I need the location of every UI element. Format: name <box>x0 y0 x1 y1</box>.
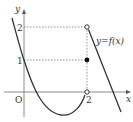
filled-point-2-1 <box>85 58 90 63</box>
function-graph: y x O 2 1 2 y=f(x) <box>0 0 133 122</box>
origin-label: O <box>15 95 22 105</box>
x-tick-2: 2 <box>86 95 92 105</box>
curve-left <box>12 18 85 115</box>
open-point-2-0 <box>85 90 89 94</box>
open-point-2-2 <box>85 25 89 29</box>
graph-svg: y x O 2 1 2 y=f(x) <box>0 0 133 122</box>
x-axis-label: x <box>126 94 131 104</box>
y-axis-label: y <box>14 4 21 14</box>
y-tick-2: 2 <box>17 23 23 33</box>
function-label: y=f(x) <box>95 36 125 46</box>
y-axis-arrow-icon <box>22 9 26 14</box>
y-tick-1: 1 <box>17 56 23 66</box>
